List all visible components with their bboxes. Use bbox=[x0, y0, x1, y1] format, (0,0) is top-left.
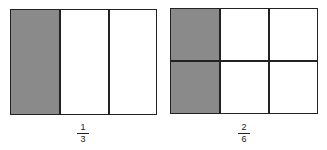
fraction-label-one-third: 1 3 bbox=[73, 123, 93, 144]
shaded-cell bbox=[11, 10, 60, 114]
fraction-model-one-third bbox=[10, 9, 157, 115]
fraction-label-two-sixths: 2 6 bbox=[234, 123, 254, 144]
divider-line bbox=[108, 10, 110, 114]
divider-line bbox=[171, 60, 317, 62]
fraction-model-two-sixths bbox=[170, 8, 318, 114]
divider-line bbox=[59, 10, 61, 114]
numerator: 2 bbox=[241, 122, 246, 132]
numerator: 1 bbox=[80, 122, 85, 132]
denominator: 3 bbox=[80, 134, 85, 144]
denominator: 6 bbox=[241, 134, 246, 144]
